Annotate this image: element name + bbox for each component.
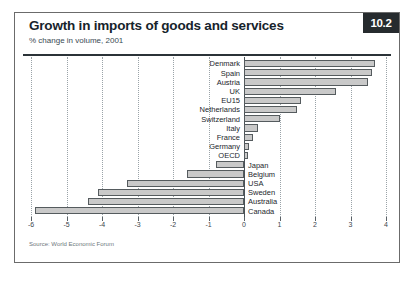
axis-tick-label: 4 xyxy=(384,221,388,228)
bar xyxy=(244,134,253,141)
bar xyxy=(98,189,244,196)
category-label: Netherlands xyxy=(200,106,240,114)
bar xyxy=(187,170,244,177)
axis-tick-label: 3 xyxy=(349,221,353,228)
source-note: Source: World Economic Forum xyxy=(29,241,114,247)
gridline xyxy=(67,57,68,217)
bar xyxy=(244,69,372,76)
category-label: Denmark xyxy=(210,60,240,68)
category-label: France xyxy=(217,134,240,142)
category-label: Switzerland xyxy=(201,116,240,124)
chart-header: Growth in imports of goods and services … xyxy=(15,13,399,57)
plot-area: DenmarkSpainAustriaUKEU15NetherlandsSwit… xyxy=(15,57,399,217)
category-label: Sweden xyxy=(248,189,275,197)
category-label: UK xyxy=(230,88,240,96)
axis-tick-label: 0 xyxy=(242,221,246,228)
page-title: Growth in imports of goods and services xyxy=(29,18,284,33)
gridline xyxy=(31,57,32,217)
category-label: USA xyxy=(248,180,263,188)
bar xyxy=(244,60,375,67)
axis-tick-label: -3 xyxy=(134,221,140,228)
category-label: Austria xyxy=(217,79,240,87)
axis-tick-label: 2 xyxy=(313,221,317,228)
category-label: Japan xyxy=(248,162,268,170)
bar xyxy=(244,152,248,159)
bar xyxy=(88,198,244,205)
bar xyxy=(244,106,297,113)
category-label: Belgium xyxy=(248,171,275,179)
x-axis: -6-5-4-3-2-101234 xyxy=(15,217,399,233)
category-label: Italy xyxy=(226,125,240,133)
bar xyxy=(216,161,244,168)
bar xyxy=(244,124,258,131)
category-label: Canada xyxy=(248,208,274,216)
bar xyxy=(127,180,244,187)
bar xyxy=(244,115,280,122)
category-label: Australia xyxy=(248,198,277,206)
bar xyxy=(244,78,368,85)
axis-tick-label: -1 xyxy=(205,221,211,228)
chart-subtitle: % change in volume, 2001 xyxy=(29,36,123,45)
axis-tick-label: 1 xyxy=(278,221,282,228)
bar xyxy=(244,97,301,104)
axis-tick-label: -5 xyxy=(63,221,69,228)
category-label: OECD xyxy=(218,152,240,160)
category-label: Germany xyxy=(209,143,240,151)
axis-tick-label: -2 xyxy=(170,221,176,228)
chart-card: Growth in imports of goods and services … xyxy=(14,12,400,263)
category-label: Spain xyxy=(221,70,240,78)
header-divider xyxy=(23,54,391,56)
category-label: EU15 xyxy=(221,97,240,105)
bar xyxy=(244,143,249,150)
axis-tick-label: -4 xyxy=(99,221,105,228)
bar xyxy=(35,207,244,214)
chart-number-badge: 10.2 xyxy=(363,13,399,33)
axis-tick-label: -6 xyxy=(28,221,34,228)
gridline xyxy=(386,57,387,217)
bar xyxy=(244,88,336,95)
